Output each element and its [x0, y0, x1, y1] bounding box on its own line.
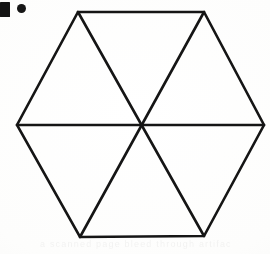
figure-page: a scanned page bleed through artifact: [0, 0, 270, 254]
hexagon-figure: [0, 0, 270, 254]
hexagon-line-group: [17, 12, 264, 237]
